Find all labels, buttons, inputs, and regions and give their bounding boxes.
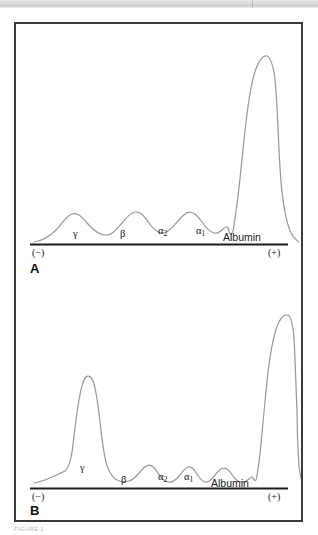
panel-a-letter: A (30, 262, 39, 275)
panel-b-label-alpha1: α1 (184, 472, 193, 483)
panel-a-label-beta: β (120, 229, 125, 240)
panel-b-densitometry-plot (16, 276, 301, 520)
panel-a-label-albumin: Albumin (223, 232, 261, 243)
panel-b-label-albumin: Albumin (211, 478, 249, 489)
panel-a-trace-curve (34, 56, 299, 242)
panel-b-anode-label: (+) (268, 492, 280, 502)
scan-band-seam (252, 0, 253, 8)
panel-a: γ β α2 α1 Albumin (−) (+) A (16, 24, 301, 276)
panel-a-cathode-label: (−) (32, 248, 44, 258)
panel-a-label-alpha1: α1 (196, 226, 205, 237)
panel-b-label-gamma: γ (80, 463, 85, 474)
panel-b-cathode-label: (−) (32, 492, 44, 502)
panel-b: γ β α2 α1 Albumin (−) (+) B (16, 276, 301, 520)
figure-frame: γ β α2 α1 Albumin (−) (+) A γ β α2 α1 Al… (14, 22, 303, 522)
panel-a-anode-label: (+) (268, 248, 280, 258)
figure-caption: FIGURE 1 (14, 526, 44, 532)
page-scan-band (0, 0, 318, 8)
panel-b-label-alpha2: α2 (158, 472, 167, 483)
panel-b-label-beta: β (121, 475, 126, 486)
panel-a-label-alpha2: α2 (158, 226, 167, 237)
panel-b-trace-curve (34, 315, 301, 483)
panel-a-label-gamma: γ (73, 229, 78, 240)
panel-b-letter: B (30, 504, 39, 517)
